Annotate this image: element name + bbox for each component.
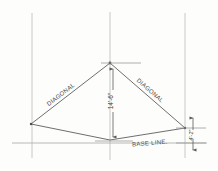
offset-dimension-label: 4'-2" [188, 129, 194, 140]
base-line-label: BASE LINE. [132, 139, 168, 148]
drawing-canvas: 14'-6" 4'-2" DIAGONAL DIAGONAL BASE LINE… [0, 0, 218, 171]
technical-drawing-svg: 14'-6" 4'-2" DIAGONAL DIAGONAL BASE LINE… [0, 0, 218, 171]
left-vertex-mark [30, 123, 32, 125]
offset-dimension-group: 4'-2" [188, 118, 194, 150]
height-dimension-group: 14'-6" [107, 69, 114, 137]
base-line-segment [31, 124, 185, 140]
line-labels-group: DIAGONAL DIAGONAL BASE LINE. [46, 77, 168, 147]
left-diagonal-label: DIAGONAL [46, 82, 76, 107]
left-diagonal-line [31, 63, 110, 124]
right-diagonal-label: DIAGONAL [136, 77, 165, 104]
right-diagonal-line [110, 63, 185, 128]
height-dimension-label: 14'-6" [107, 92, 114, 109]
construction-lines-group [32, 12, 185, 160]
